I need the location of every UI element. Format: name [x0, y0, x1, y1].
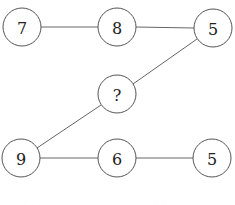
node-bottom-right: 5: [193, 139, 231, 177]
edge-question-9: [37, 105, 101, 148]
option-value: 7: [46, 202, 54, 205]
node-top-left: 7: [3, 8, 41, 46]
number-graph-diagram: 7 8 5 ? 9 6 5: [0, 0, 235, 185]
question-mark-label: ?: [113, 86, 122, 105]
edge-8-5: [136, 27, 194, 28]
node-label: 8: [112, 19, 122, 38]
node-label: 6: [112, 150, 122, 169]
edge-5-question: [133, 39, 197, 84]
option-c[interactable]: (c)8: [138, 185, 185, 205]
node-label: 9: [16, 150, 26, 169]
node-question: ?: [98, 75, 136, 113]
answer-options: (b)7 (c)8: [0, 185, 235, 205]
option-b[interactable]: (b)7: [5, 185, 53, 205]
node-top-right: 5: [194, 9, 232, 47]
node-top-middle: 8: [98, 8, 136, 46]
node-bottom-left: 9: [2, 139, 40, 177]
option-key: (c): [153, 202, 170, 205]
option-value: 8: [178, 202, 186, 205]
node-bottom-middle: 6: [98, 139, 136, 177]
node-label: 5: [208, 20, 218, 39]
node-label: 7: [17, 19, 27, 38]
option-key: (b): [20, 202, 38, 205]
node-label: 5: [207, 150, 217, 169]
